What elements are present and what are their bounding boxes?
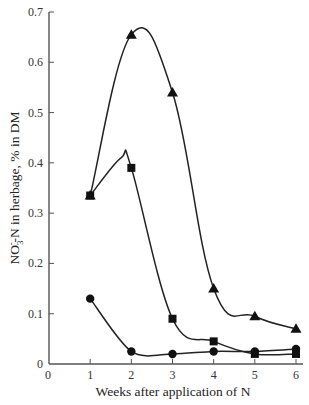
curve-circle: [90, 299, 296, 356]
x-tick-label: 6: [293, 368, 299, 382]
y-axis-title: NO3--N in herbage, % in DM: [6, 111, 25, 264]
triangle-marker: [167, 87, 178, 97]
y-tick-label: 0.5: [28, 106, 43, 120]
x-tick-label: 0: [45, 368, 51, 382]
circle-marker: [251, 347, 259, 355]
line-chart: 00.10.20.30.40.50.60.70123456 Weeks afte…: [0, 0, 309, 405]
x-tick-label: 4: [211, 368, 217, 382]
y-tick-label: 0.2: [28, 256, 43, 270]
x-tick-label: 3: [170, 368, 176, 382]
y-tick-label: 0: [37, 357, 43, 371]
y-tick-label: 0.4: [28, 156, 43, 170]
square-marker: [127, 164, 135, 172]
x-axis-title: Weeks after application of N: [96, 384, 251, 399]
curve-triangle: [90, 28, 296, 329]
square-marker: [210, 337, 218, 345]
curve-square: [90, 150, 296, 355]
y-tick-label: 0.3: [28, 206, 43, 220]
y-tick-label: 0.1: [28, 307, 43, 321]
axes: 00.10.20.30.40.50.60.70123456: [28, 5, 303, 382]
x-tick-label: 1: [87, 368, 93, 382]
square-marker: [169, 315, 177, 323]
x-tick-label: 2: [128, 368, 134, 382]
triangle-marker: [208, 283, 219, 293]
circle-marker: [127, 347, 135, 355]
circle-marker: [292, 345, 300, 353]
circle-marker: [86, 294, 94, 302]
square-marker: [86, 192, 94, 200]
series-curves: [90, 28, 296, 356]
x-tick-label: 5: [252, 368, 258, 382]
circle-marker: [168, 350, 176, 358]
circle-marker: [209, 347, 217, 355]
y-tick-label: 0.6: [28, 55, 43, 69]
y-tick-label: 0.7: [28, 5, 43, 19]
